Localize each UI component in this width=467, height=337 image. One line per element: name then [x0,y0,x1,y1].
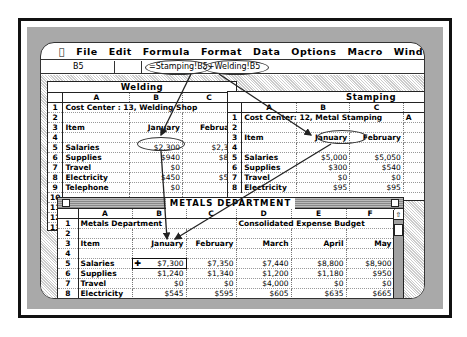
cell[interactable]: $45 [186,299,236,300]
cell[interactable]: $45 [291,299,346,300]
cell[interactable]: Telephone [78,299,132,300]
row-header[interactable]: 9 [58,299,78,300]
table-row: 9Telephone$45$45$45$45$90 [58,299,394,300]
cell[interactable]: $45 [236,299,291,300]
reference-arrows [41,43,425,299]
cell[interactable]: $90 [346,299,394,300]
mac-screen:  File Edit Formula Format Data Options … [40,42,425,299]
cell[interactable]: $45 [132,299,186,300]
